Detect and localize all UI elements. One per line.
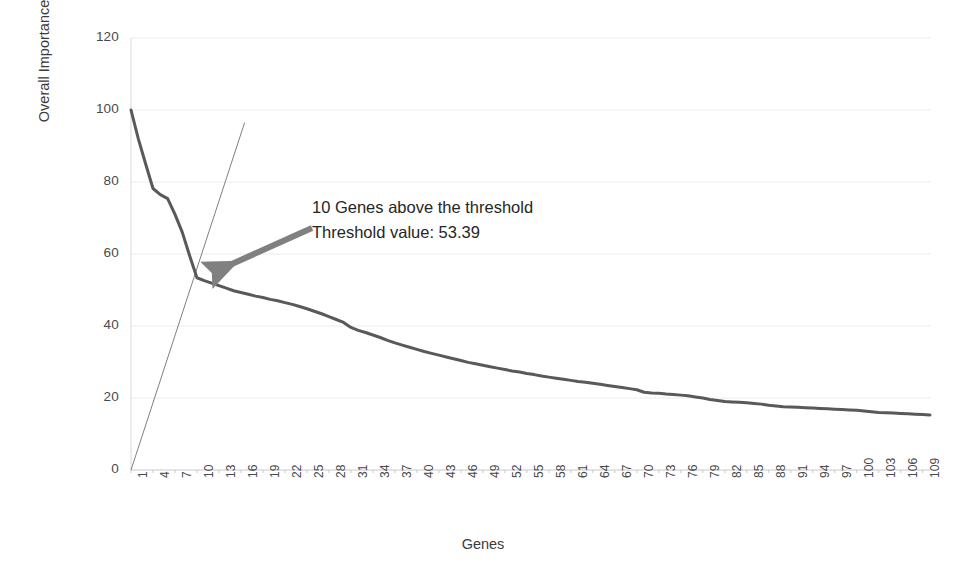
x-tick-label: 85 xyxy=(752,464,766,478)
annotation-line-1: 10 Genes above the threshold xyxy=(312,195,533,220)
x-tick-label: 22 xyxy=(290,464,304,478)
x-tick-label: 70 xyxy=(642,464,656,478)
x-tick-label: 82 xyxy=(730,464,744,478)
y-axis-title: Overall Importance Score xyxy=(36,0,56,150)
x-tick-label: 61 xyxy=(576,464,590,478)
y-tick-label: 120 xyxy=(75,29,119,44)
x-tick-label: 31 xyxy=(356,464,370,478)
y-tick-label: 100 xyxy=(75,101,119,116)
x-tick-label: 106 xyxy=(906,458,920,478)
x-tick-label: 10 xyxy=(202,464,216,478)
x-tick-label: 73 xyxy=(664,464,678,478)
x-tick-label: 13 xyxy=(224,464,238,478)
x-tick-label: 100 xyxy=(862,458,876,478)
x-tick-label: 94 xyxy=(818,464,832,478)
x-tick-label: 103 xyxy=(884,458,898,478)
y-tick-label: 40 xyxy=(75,317,119,332)
x-tick-label: 25 xyxy=(312,464,326,478)
plot-canvas xyxy=(0,0,966,577)
x-axis-title: Genes xyxy=(0,536,966,552)
x-tick-label: 55 xyxy=(532,464,546,478)
x-tick-label: 7 xyxy=(180,471,194,478)
x-tick-label: 97 xyxy=(840,464,854,478)
x-tick-label: 43 xyxy=(444,464,458,478)
y-tick-label: 80 xyxy=(75,173,119,188)
x-tick-label: 64 xyxy=(598,464,612,478)
x-tick-label: 4 xyxy=(158,471,172,478)
x-tick-label: 91 xyxy=(796,464,810,478)
x-tick-label: 40 xyxy=(422,464,436,478)
y-tick-label: 60 xyxy=(75,245,119,260)
x-tick-label: 34 xyxy=(378,464,392,478)
x-tick-label: 46 xyxy=(466,464,480,478)
x-tick-label: 1 xyxy=(136,471,150,478)
x-tick-label: 52 xyxy=(510,464,524,478)
x-tick-label: 19 xyxy=(268,464,282,478)
x-tick-label: 76 xyxy=(686,464,700,478)
x-tick-label: 109 xyxy=(928,458,942,478)
x-tick-label: 88 xyxy=(774,464,788,478)
x-tick-label: 79 xyxy=(708,464,722,478)
x-tick-label: 37 xyxy=(400,464,414,478)
y-tick-label: 20 xyxy=(75,389,119,404)
x-tick-label: 49 xyxy=(488,464,502,478)
x-tick-label: 58 xyxy=(554,464,568,478)
x-tick-label: 67 xyxy=(620,464,634,478)
y-tick-label: 0 xyxy=(75,461,119,476)
x-tick-label: 16 xyxy=(246,464,260,478)
x-tick-label: 28 xyxy=(334,464,348,478)
annotation-line-2: Threshold value: 53.39 xyxy=(312,220,533,245)
importance-score-line xyxy=(131,110,930,415)
annotation-arrow xyxy=(214,228,312,272)
chart-figure: 120100806040200 147101316192225283134374… xyxy=(0,0,966,577)
threshold-annotation: 10 Genes above the threshold Threshold v… xyxy=(312,195,533,245)
